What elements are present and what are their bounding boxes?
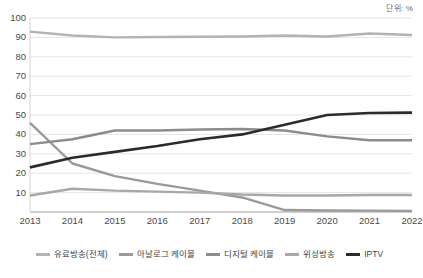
series-lines	[30, 18, 412, 212]
y-axis-tick: 40	[15, 130, 26, 140]
x-axis-tick: 2022	[401, 216, 422, 226]
legend-label: IPTV	[364, 250, 383, 259]
x-axis-tick: 2017	[189, 216, 210, 226]
x-axis-tick: 2015	[104, 216, 125, 226]
x-axis-tick: 2016	[147, 216, 168, 226]
series-line-0	[30, 32, 412, 38]
y-axis-tick: 100	[10, 13, 26, 23]
legend-label: 유료방송(전체)	[54, 250, 108, 259]
x-axis-tick: 2013	[19, 216, 40, 226]
legend-swatch-icon	[119, 253, 133, 256]
x-axis-tick: 2019	[274, 216, 295, 226]
legend-label: 아날로그 케이블	[137, 250, 195, 259]
legend-item[interactable]: 유료방송(전체)	[36, 250, 108, 259]
chart-legend: 유료방송(전체)아날로그 케이블디지털 케이블위성방송IPTV	[0, 250, 419, 259]
y-axis-tick: 30	[15, 149, 26, 159]
legend-swatch-icon	[36, 253, 50, 256]
x-axis: 2013201420152016201720182019202020212022	[30, 216, 412, 232]
plot-area	[30, 18, 412, 212]
x-axis-tick: 2020	[317, 216, 338, 226]
legend-item[interactable]: 디지털 케이블	[206, 250, 274, 259]
x-axis-tick: 2021	[359, 216, 380, 226]
y-axis-tick: 10	[15, 188, 26, 198]
legend-item[interactable]: 아날로그 케이블	[119, 250, 195, 259]
legend-swatch-icon	[206, 253, 220, 256]
unit-note-label: 단위: %	[386, 2, 413, 13]
y-axis-tick: 90	[15, 33, 26, 43]
legend-swatch-icon	[346, 253, 360, 256]
x-axis-tick: 2018	[232, 216, 253, 226]
y-axis: 100908070605040302010	[0, 18, 26, 212]
y-axis-tick: 80	[15, 52, 26, 62]
series-line-3	[30, 189, 412, 196]
legend-item[interactable]: IPTV	[346, 250, 383, 259]
y-axis-tick: 60	[15, 91, 26, 101]
legend-label: 디지털 케이블	[224, 250, 274, 259]
legend-label: 위성방송	[303, 250, 335, 259]
y-axis-tick: 70	[15, 71, 26, 81]
legend-swatch-icon	[285, 253, 299, 256]
x-axis-tick: 2014	[62, 216, 83, 226]
y-axis-tick: 20	[15, 168, 26, 178]
legend-item[interactable]: 위성방송	[285, 250, 335, 259]
y-axis-tick: 50	[15, 110, 26, 120]
